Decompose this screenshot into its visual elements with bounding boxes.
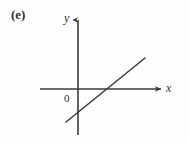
coordinate-plot-svg bbox=[0, 0, 189, 143]
figure-panel: (e) y x 0 bbox=[0, 0, 189, 143]
origin-label: 0 bbox=[64, 92, 70, 104]
x-axis-label: x bbox=[166, 82, 171, 95]
y-axis-label: y bbox=[64, 12, 69, 25]
part-label: (e) bbox=[11, 7, 25, 23]
